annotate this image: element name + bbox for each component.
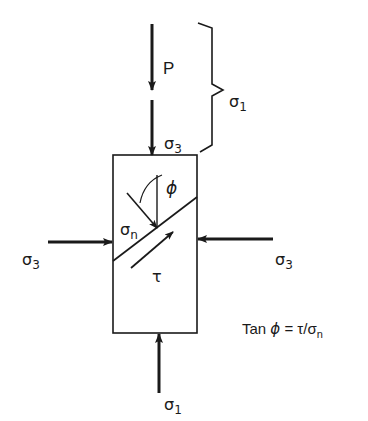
phi-label: ϕ [166, 178, 177, 198]
sigma1-brace-label: σ1 [229, 92, 247, 114]
friction-equation: Tan ϕ = τ/σn [242, 320, 323, 340]
stress-diagram: P σ3 σ1 ϕ σn τ σ3 σ3 σ1 Tan ϕ = τ/σn [0, 0, 368, 421]
sigma3-top-label: σ3 [164, 134, 182, 156]
normal-stress-arrow [127, 193, 157, 228]
sigma3-right-label: σ3 [275, 250, 293, 272]
load-label-p: P [163, 59, 174, 78]
sigma1-brace [198, 23, 223, 152]
sigma1-bottom-label: σ1 [164, 395, 182, 417]
sigma-n-label: σn [120, 220, 138, 242]
tau-label: τ [152, 267, 162, 286]
specimen-box [113, 155, 197, 333]
sigma3-left-label: σ3 [22, 250, 40, 272]
phi-angle-arc [140, 175, 162, 203]
